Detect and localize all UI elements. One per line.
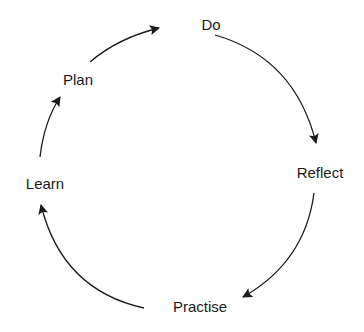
arrow-practise-to-learn <box>41 205 144 308</box>
node-do: Do <box>201 17 220 32</box>
node-plan: Plan <box>63 72 93 87</box>
arrow-plan-to-do <box>90 28 159 62</box>
arrow-do-to-reflect <box>215 35 316 143</box>
arrow-reflect-to-practise <box>243 193 314 297</box>
node-practise: Practise <box>173 299 227 314</box>
node-reflect: Reflect <box>297 165 344 180</box>
arrow-learn-to-plan <box>40 97 60 157</box>
cycle-diagram: Do Reflect Practise Learn Plan <box>0 0 364 332</box>
node-learn: Learn <box>26 176 64 191</box>
